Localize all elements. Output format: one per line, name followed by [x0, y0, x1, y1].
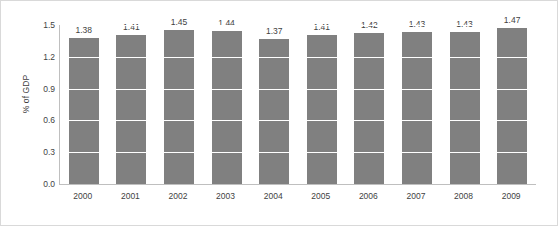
bar-slot: 1.47 — [488, 25, 536, 184]
y-tick-label: 0.0 — [43, 179, 55, 189]
bar-value-label: 1.47 — [504, 15, 521, 25]
bar — [212, 31, 242, 184]
bar-slot: 1.42 — [346, 25, 394, 184]
y-tick-label: 1.2 — [43, 52, 55, 62]
bar-slot: 1.37 — [250, 25, 298, 184]
y-tick-label: 0.9 — [43, 84, 55, 94]
bar — [164, 30, 194, 184]
bar-slot: 1.38 — [60, 25, 108, 184]
x-tick-label: 2004 — [249, 191, 297, 201]
bar — [259, 39, 289, 184]
x-tick-label: 2002 — [154, 191, 202, 201]
bar-slot: 1.43 — [393, 25, 441, 184]
bar-series: 1.381.411.451.441.371.411.421.431.431.47 — [60, 25, 536, 184]
y-tick-label: 0.6 — [43, 115, 55, 125]
x-tick-label: 2005 — [297, 191, 345, 201]
bar-value-label: 1.42 — [361, 20, 378, 30]
bar-value-label: 1.41 — [123, 22, 140, 32]
bar-value-label: 1.44 — [218, 18, 235, 28]
bar — [354, 33, 384, 184]
bar-slot: 1.45 — [155, 25, 203, 184]
bar — [450, 32, 480, 184]
bar-value-label: 1.43 — [456, 19, 473, 29]
bar-slot: 1.41 — [108, 25, 156, 184]
bar-value-label: 1.38 — [76, 25, 93, 35]
y-axis-tick-labels: 0.00.30.60.91.21.5 — [29, 25, 55, 184]
x-tick-label: 2008 — [440, 191, 488, 201]
x-tick-label: 2009 — [487, 191, 535, 201]
bar-value-label: 1.43 — [409, 19, 426, 29]
plot-area: 1.381.411.451.441.371.411.421.431.431.47 — [59, 25, 536, 185]
x-tick-label: 2000 — [59, 191, 107, 201]
x-tick-label: 2001 — [107, 191, 155, 201]
bar-slot: 1.43 — [441, 25, 489, 184]
bar-value-label: 1.45 — [171, 17, 188, 27]
x-axis-tick-labels: 2000200120022003200420052006200720082009 — [59, 191, 535, 201]
bar — [307, 35, 337, 184]
bar — [402, 32, 432, 184]
bar-value-label: 1.37 — [266, 26, 283, 36]
y-tick-label: 1.5 — [43, 20, 55, 30]
bar — [116, 35, 146, 184]
x-tick-label: 2003 — [202, 191, 250, 201]
x-tick-label: 2007 — [392, 191, 440, 201]
bar-slot: 1.41 — [298, 25, 346, 184]
x-tick-label: 2006 — [345, 191, 393, 201]
bar-slot: 1.44 — [203, 25, 251, 184]
y-tick-label: 0.3 — [43, 147, 55, 157]
bar-value-label: 1.41 — [313, 22, 330, 32]
bar — [69, 38, 99, 184]
chart-figure: % of GDP 0.00.30.60.91.21.5 1.381.411.45… — [0, 0, 558, 226]
bar — [497, 28, 527, 184]
